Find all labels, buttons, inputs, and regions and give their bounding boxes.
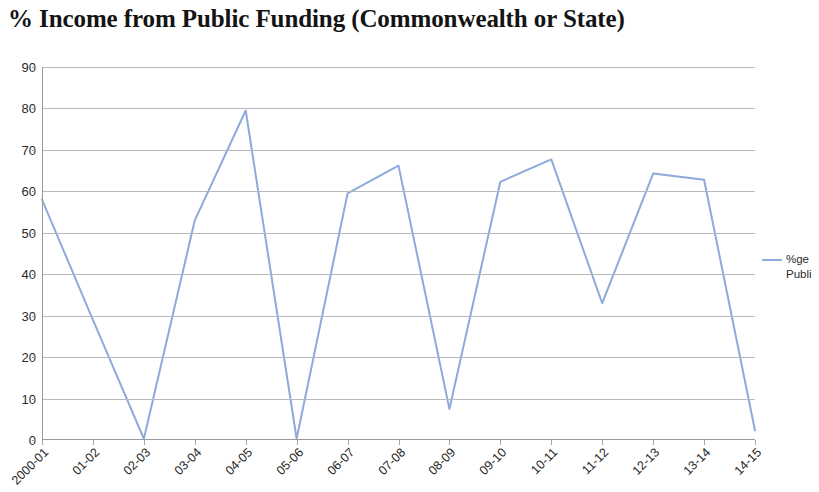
x-axis-tickmark <box>755 440 756 445</box>
x-axis-tickmark <box>704 440 705 445</box>
y-axis-tickmark <box>32 440 36 441</box>
x-axis-tickmark <box>399 440 400 445</box>
gridline <box>42 274 755 275</box>
gridline <box>42 233 755 234</box>
y-axis-tickmark <box>32 399 36 400</box>
legend-label: %ge Publi <box>786 252 812 282</box>
y-axis-tick-label: 80 <box>2 102 36 115</box>
x-axis-tickmark <box>449 440 450 445</box>
x-axis-tickmark <box>297 440 298 445</box>
y-axis-tick-label: 10 <box>2 392 36 405</box>
series-line-chart <box>42 67 755 440</box>
gridline <box>42 150 755 151</box>
chart-legend: %ge Publi <box>762 252 819 282</box>
chart-container: % Income from Public Funding (Commonweal… <box>0 0 819 492</box>
gridline <box>42 191 755 192</box>
y-axis-tick-label: 40 <box>2 268 36 281</box>
plot-area <box>42 67 755 440</box>
y-axis-line <box>42 67 43 440</box>
y-axis-tick-label: 30 <box>2 309 36 322</box>
y-axis-tickmark <box>32 357 36 358</box>
x-axis-tickmark <box>602 440 603 445</box>
legend-color-swatch-icon <box>762 259 782 261</box>
legend-item: %ge Publi <box>762 252 819 282</box>
gridline <box>42 67 755 68</box>
y-axis-tick-label: 60 <box>2 185 36 198</box>
y-axis-tick-label: 50 <box>2 226 36 239</box>
y-axis-tick-label: 70 <box>2 143 36 156</box>
y-axis-tickmark <box>32 150 36 151</box>
chart-title: % Income from Public Funding (Commonweal… <box>8 4 788 34</box>
y-axis-tick-label: 0 <box>2 434 36 447</box>
y-axis-labels: 0102030405060708090 <box>0 67 36 440</box>
x-axis-tickmark <box>348 440 349 445</box>
y-axis-tickmark <box>32 191 36 192</box>
gridline <box>42 108 755 109</box>
y-axis-tickmark <box>32 67 36 68</box>
x-axis-tickmark <box>42 440 43 445</box>
y-axis-tick-label: 90 <box>2 61 36 74</box>
x-axis-tickmark <box>246 440 247 445</box>
gridline <box>42 399 755 400</box>
y-axis-tickmark <box>32 274 36 275</box>
gridline <box>42 316 755 317</box>
legend-label-line-2: Publi <box>786 268 812 280</box>
x-axis-tickmark <box>144 440 145 445</box>
x-axis-tickmark <box>195 440 196 445</box>
x-axis-tick-label: 2000-01 <box>0 446 51 492</box>
legend-label-line-1: %ge <box>786 253 809 265</box>
y-axis-tickmark <box>32 108 36 109</box>
y-axis-tick-label: 20 <box>2 351 36 364</box>
x-axis-tickmark <box>551 440 552 445</box>
x-axis-labels: 2000-0101-0202-0303-0404-0505-0606-0707-… <box>42 446 755 492</box>
y-axis-tickmark <box>32 316 36 317</box>
y-axis-tickmark <box>32 233 36 234</box>
x-axis-tickmark <box>93 440 94 445</box>
gridline <box>42 357 755 358</box>
x-axis-tickmark <box>500 440 501 445</box>
x-axis-tickmark <box>653 440 654 445</box>
